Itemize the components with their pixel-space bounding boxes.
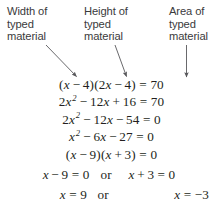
equation-step-1: (x−4)(2x−4) = 70 <box>0 76 221 93</box>
arrow-height-to-second-factor <box>115 45 127 77</box>
zero-product-row: x−9 = 0 or x+3 = 0 <box>0 166 221 184</box>
equation-step-2: 2x2−12x+16 = 70 <box>0 93 221 110</box>
solutions-connector: or <box>87 186 119 204</box>
callout-label-height: Height of typed material <box>84 5 156 43</box>
equation-step-3: 2x2−12x−54 = 0 <box>0 111 221 128</box>
equation-step-4: x2−6x−27 = 0 <box>0 128 221 145</box>
zero-product-right-equation: x+3 = 0 <box>123 166 221 184</box>
solution-left: x = 9 <box>0 186 87 204</box>
equation-step-5: (x−9)(x+3) = 0 <box>0 146 221 163</box>
callout-label-area: Area of typed material <box>169 5 221 43</box>
callout-label-width: Width of typed material <box>7 5 79 43</box>
arrow-width-to-first-factor <box>46 45 77 77</box>
figure-canvas: Width of typed material Height of typed … <box>0 0 221 224</box>
zero-product-connector: or <box>90 166 123 184</box>
solutions-row: x = 9 or x = −3 <box>0 186 221 204</box>
zero-product-left-equation: x−9 = 0 <box>0 166 90 184</box>
equation-stack: (x−4)(2x−4) = 70 2x2−12x+16 = 70 2x2−12x… <box>0 76 221 204</box>
solution-right: x = −3 <box>119 186 221 204</box>
